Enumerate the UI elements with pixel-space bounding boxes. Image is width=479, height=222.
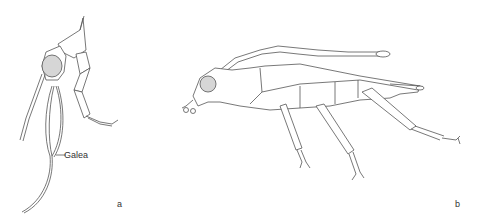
panel-b-label: b [455,199,460,209]
panel-a-drawing [0,0,479,222]
galea-annotation: Galea [64,150,88,160]
panel-b-insect-lateral [182,46,460,180]
panel-a-label: a [117,199,122,209]
panel-a-insect-head [20,16,118,213]
